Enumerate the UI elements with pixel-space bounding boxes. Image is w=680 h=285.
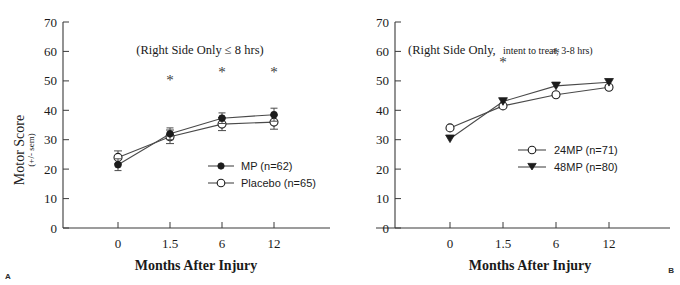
significance-star: *	[270, 64, 278, 80]
x-axis-title: Months After Injury	[135, 258, 258, 273]
legend-label: 48MP (n=80)	[554, 161, 618, 173]
y-tick-label: 50	[44, 73, 57, 88]
x-tick-label: 0	[115, 236, 122, 251]
panel-letter-b: B	[668, 266, 674, 275]
x-tick-label: 6	[219, 236, 226, 251]
y-tick-label: 70	[376, 15, 389, 30]
chart-b-svg: 0 10 20 30 40 50 60 70 0 1.5 6 12	[340, 0, 680, 285]
y-tick-label: 30	[44, 132, 57, 147]
panel-letter-a: A	[5, 272, 11, 281]
y-axis-title-a: Motor Score (+/- sem)	[12, 115, 36, 185]
y-axis-ticks-b: 0 10 20 30 40 50 60 70	[376, 15, 401, 236]
y-tick-label: 70	[44, 15, 57, 30]
legend-label: MP (n=62)	[241, 160, 292, 172]
x-axis-ticks-b: 0 1.5 6 12	[447, 222, 616, 251]
x-tick-label: 6	[553, 236, 560, 251]
legend-marker-open-circle	[528, 146, 536, 154]
y-tick-label: 50	[376, 73, 389, 88]
x-tick-label: 0	[447, 236, 454, 251]
legend-item-24mp[interactable]: 24MP (n=71)	[518, 144, 618, 156]
figure-container: Motor Score (+/- sem) 0 10 20 30 40	[0, 0, 680, 285]
legend-marker-open-circle	[217, 179, 225, 187]
series-placebo	[114, 115, 278, 164]
y-axis-ticks-a: 0 10 20 30 40 50 60 70	[44, 15, 69, 236]
y-axis-title-main: Motor Score	[12, 115, 27, 185]
y-tick-label: 0	[383, 221, 390, 236]
y-tick-label: 20	[376, 162, 389, 177]
significance-star: *	[218, 64, 226, 80]
y-tick-label: 10	[44, 191, 57, 206]
x-tick-label: 12	[268, 236, 281, 251]
chart-panel-b: 0 10 20 30 40 50 60 70 0 1.5 6 12	[340, 0, 680, 285]
y-tick-label: 30	[376, 132, 389, 147]
y-tick-label: 10	[376, 191, 389, 206]
y-tick-label: 60	[376, 44, 389, 59]
error-bars-placebo	[114, 115, 278, 164]
significance-star: *	[166, 72, 174, 88]
significance-star: *	[499, 54, 507, 70]
y-tick-label: 40	[44, 103, 57, 118]
legend-item-48mp[interactable]: 48MP (n=80)	[518, 161, 618, 173]
chart-panel-a: Motor Score (+/- sem) 0 10 20 30 40	[0, 0, 340, 285]
x-tick-label: 1.5	[495, 236, 511, 251]
panel-title-b-part2: intent to treat, 3-8 hrs)	[503, 45, 593, 57]
significance-star: *	[552, 45, 560, 61]
series-48mp	[446, 79, 614, 143]
y-tick-label: 60	[44, 44, 57, 59]
legend-label: Placebo (n=65)	[241, 177, 316, 189]
legend-marker-filled-circle	[218, 163, 224, 169]
x-tick-label: 12	[603, 236, 616, 251]
x-axis-title: Months After Injury	[469, 258, 592, 273]
y-axis-title-sub: (+/- sem)	[26, 133, 36, 166]
legend-item-placebo[interactable]: Placebo (n=65)	[208, 177, 316, 189]
panel-title-b-part1: (Right Side Only,	[408, 43, 496, 57]
legend-b: 24MP (n=71) 48MP (n=80)	[518, 144, 618, 173]
y-tick-label: 0	[51, 221, 58, 236]
panel-title-a: (Right Side Only ≤ 8 hrs)	[136, 43, 263, 57]
legend-label: 24MP (n=71)	[554, 144, 618, 156]
x-axis-ticks-a: 0 1.5 6 12	[115, 222, 281, 251]
legend-item-mp[interactable]: MP (n=62)	[208, 160, 292, 172]
chart-a-svg: Motor Score (+/- sem) 0 10 20 30 40	[0, 0, 340, 285]
legend-a: MP (n=62) Placebo (n=65)	[208, 160, 316, 189]
x-tick-label: 1.5	[162, 236, 178, 251]
y-tick-label: 40	[376, 103, 389, 118]
y-tick-label: 20	[44, 162, 57, 177]
